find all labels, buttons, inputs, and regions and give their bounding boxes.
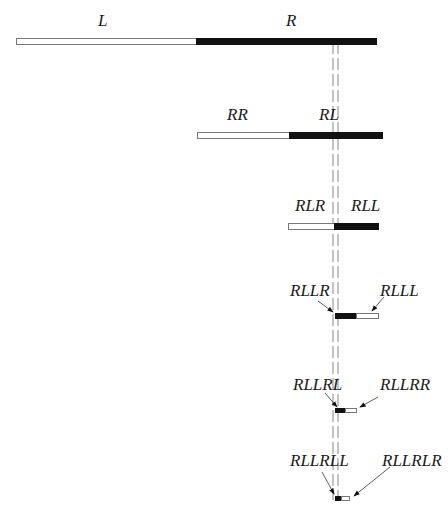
guide-lines-and-arrows: [0, 0, 448, 518]
label-RLLR: RLLR: [290, 282, 330, 299]
binary-subdivision-diagram: L R RR RL RLR RLL RLLR RLLL RLLRL RLLRR …: [0, 0, 448, 518]
label-L: L: [98, 12, 107, 29]
segment-RLLR: [335, 313, 357, 319]
segment-RLLL: [356, 313, 379, 319]
segment-RL: [289, 132, 383, 139]
label-RLLL: RLLL: [380, 282, 419, 299]
segment-L: [16, 38, 197, 45]
segment-RLR: [288, 223, 335, 230]
label-RLLRLL: RLLRLL: [290, 452, 349, 469]
label-RLLRLR: RLLRLR: [382, 452, 442, 469]
segment-RLLRLR: [341, 496, 350, 501]
segment-RLLRR: [345, 408, 357, 413]
label-RL: RL: [319, 106, 339, 123]
label-RLLRR: RLLRR: [380, 376, 430, 393]
label-RLR: RLR: [295, 197, 325, 214]
segment-RLL: [334, 223, 379, 230]
label-RR: RR: [227, 106, 248, 123]
label-R: R: [286, 12, 296, 29]
label-RLL: RLL: [351, 197, 380, 214]
label-RLLRL: RLLRL: [293, 376, 342, 393]
segment-RR: [197, 132, 290, 139]
segment-R: [196, 38, 377, 45]
